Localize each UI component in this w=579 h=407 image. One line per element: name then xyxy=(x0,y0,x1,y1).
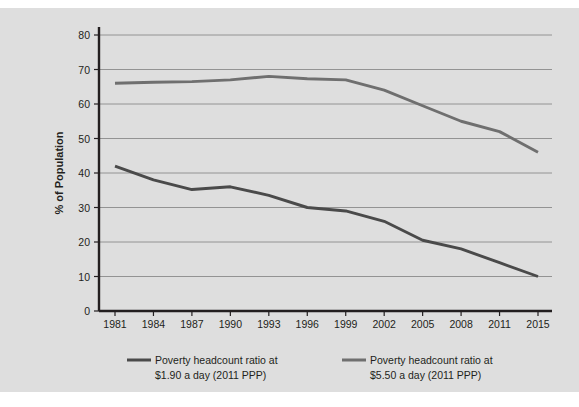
legend-label-line2-2: $5.50 a day (2011 PPP) xyxy=(370,369,481,381)
y-tick-label: 10 xyxy=(78,271,90,283)
y-tick-label: 70 xyxy=(78,64,90,76)
y-tick-label: 60 xyxy=(78,98,90,110)
series-line-1 xyxy=(115,166,538,276)
legend-label-line2-1: $1.90 a day (2011 PPP) xyxy=(155,369,266,381)
x-tick-label: 1999 xyxy=(334,318,358,330)
x-tick-label: 1993 xyxy=(257,318,281,330)
y-tick-label: 80 xyxy=(78,29,90,41)
x-tick-label: 1990 xyxy=(219,318,243,330)
x-tick-label: 1984 xyxy=(142,318,166,330)
x-tick-label: 2011 xyxy=(488,318,511,330)
y-tick-label: 50 xyxy=(78,133,90,145)
x-tick-label: 1996 xyxy=(296,318,320,330)
y-axis-title: % of Population xyxy=(53,131,65,214)
x-tick-label: 2015 xyxy=(526,318,550,330)
x-tick-label: 2002 xyxy=(373,318,397,330)
x-tick-label: 1987 xyxy=(180,318,204,330)
y-tick-label: 40 xyxy=(78,167,90,179)
legend-label-line1-2: Poverty headcount ratio at xyxy=(370,354,493,366)
y-tick-label: 20 xyxy=(78,236,90,248)
x-tick-label: 2005 xyxy=(411,318,435,330)
y-tick-label: 0 xyxy=(84,305,90,317)
line-chart: 0102030405060708019811984198719901993199… xyxy=(0,8,579,392)
x-tick-label: 1981 xyxy=(103,318,127,330)
x-tick-label: 2008 xyxy=(449,318,473,330)
y-tick-label: 30 xyxy=(78,202,90,214)
series-line-2 xyxy=(115,76,538,152)
chart-figure: 0102030405060708019811984198719901993199… xyxy=(0,8,579,392)
legend-label-line1-1: Poverty headcount ratio at xyxy=(155,354,278,366)
